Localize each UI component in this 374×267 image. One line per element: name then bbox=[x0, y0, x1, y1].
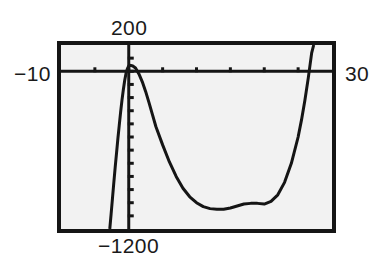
y-min-label: −1200 bbox=[98, 235, 159, 256]
plot-canvas bbox=[61, 45, 332, 229]
plot-viewport bbox=[57, 41, 336, 233]
calculator-graph-screen: 200 −10 30 −1200 bbox=[0, 0, 374, 267]
x-max-label: 30 bbox=[345, 63, 369, 84]
y-max-label: 200 bbox=[111, 17, 147, 38]
x-min-label: −10 bbox=[14, 63, 51, 84]
